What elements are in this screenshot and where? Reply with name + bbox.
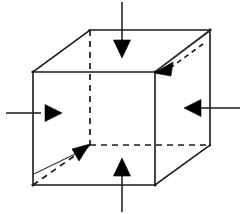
back-face-arrow-stem — [167, 31, 210, 63]
edge-bottom-right-receding — [155, 145, 210, 185]
back-face-arrow-head — [154, 62, 173, 76]
right-arrow — [184, 100, 240, 117]
cube-diagram-canvas — [0, 0, 246, 214]
top-arrow-head — [114, 40, 131, 58]
left-arrow — [6, 105, 62, 122]
bottom-arrow-head — [114, 158, 131, 176]
edge-top-left-receding — [33, 30, 90, 72]
back-face-arrow — [154, 31, 210, 76]
right-arrow-head — [184, 100, 201, 117]
front-face-arrow-head — [72, 144, 90, 161]
front-face-arrow — [34, 144, 90, 174]
left-arrow-head — [45, 105, 62, 122]
front-face-arrow-stem — [34, 153, 77, 174]
cube-compression-figure: Cube under triaxial compression Wirefram… — [0, 0, 246, 214]
